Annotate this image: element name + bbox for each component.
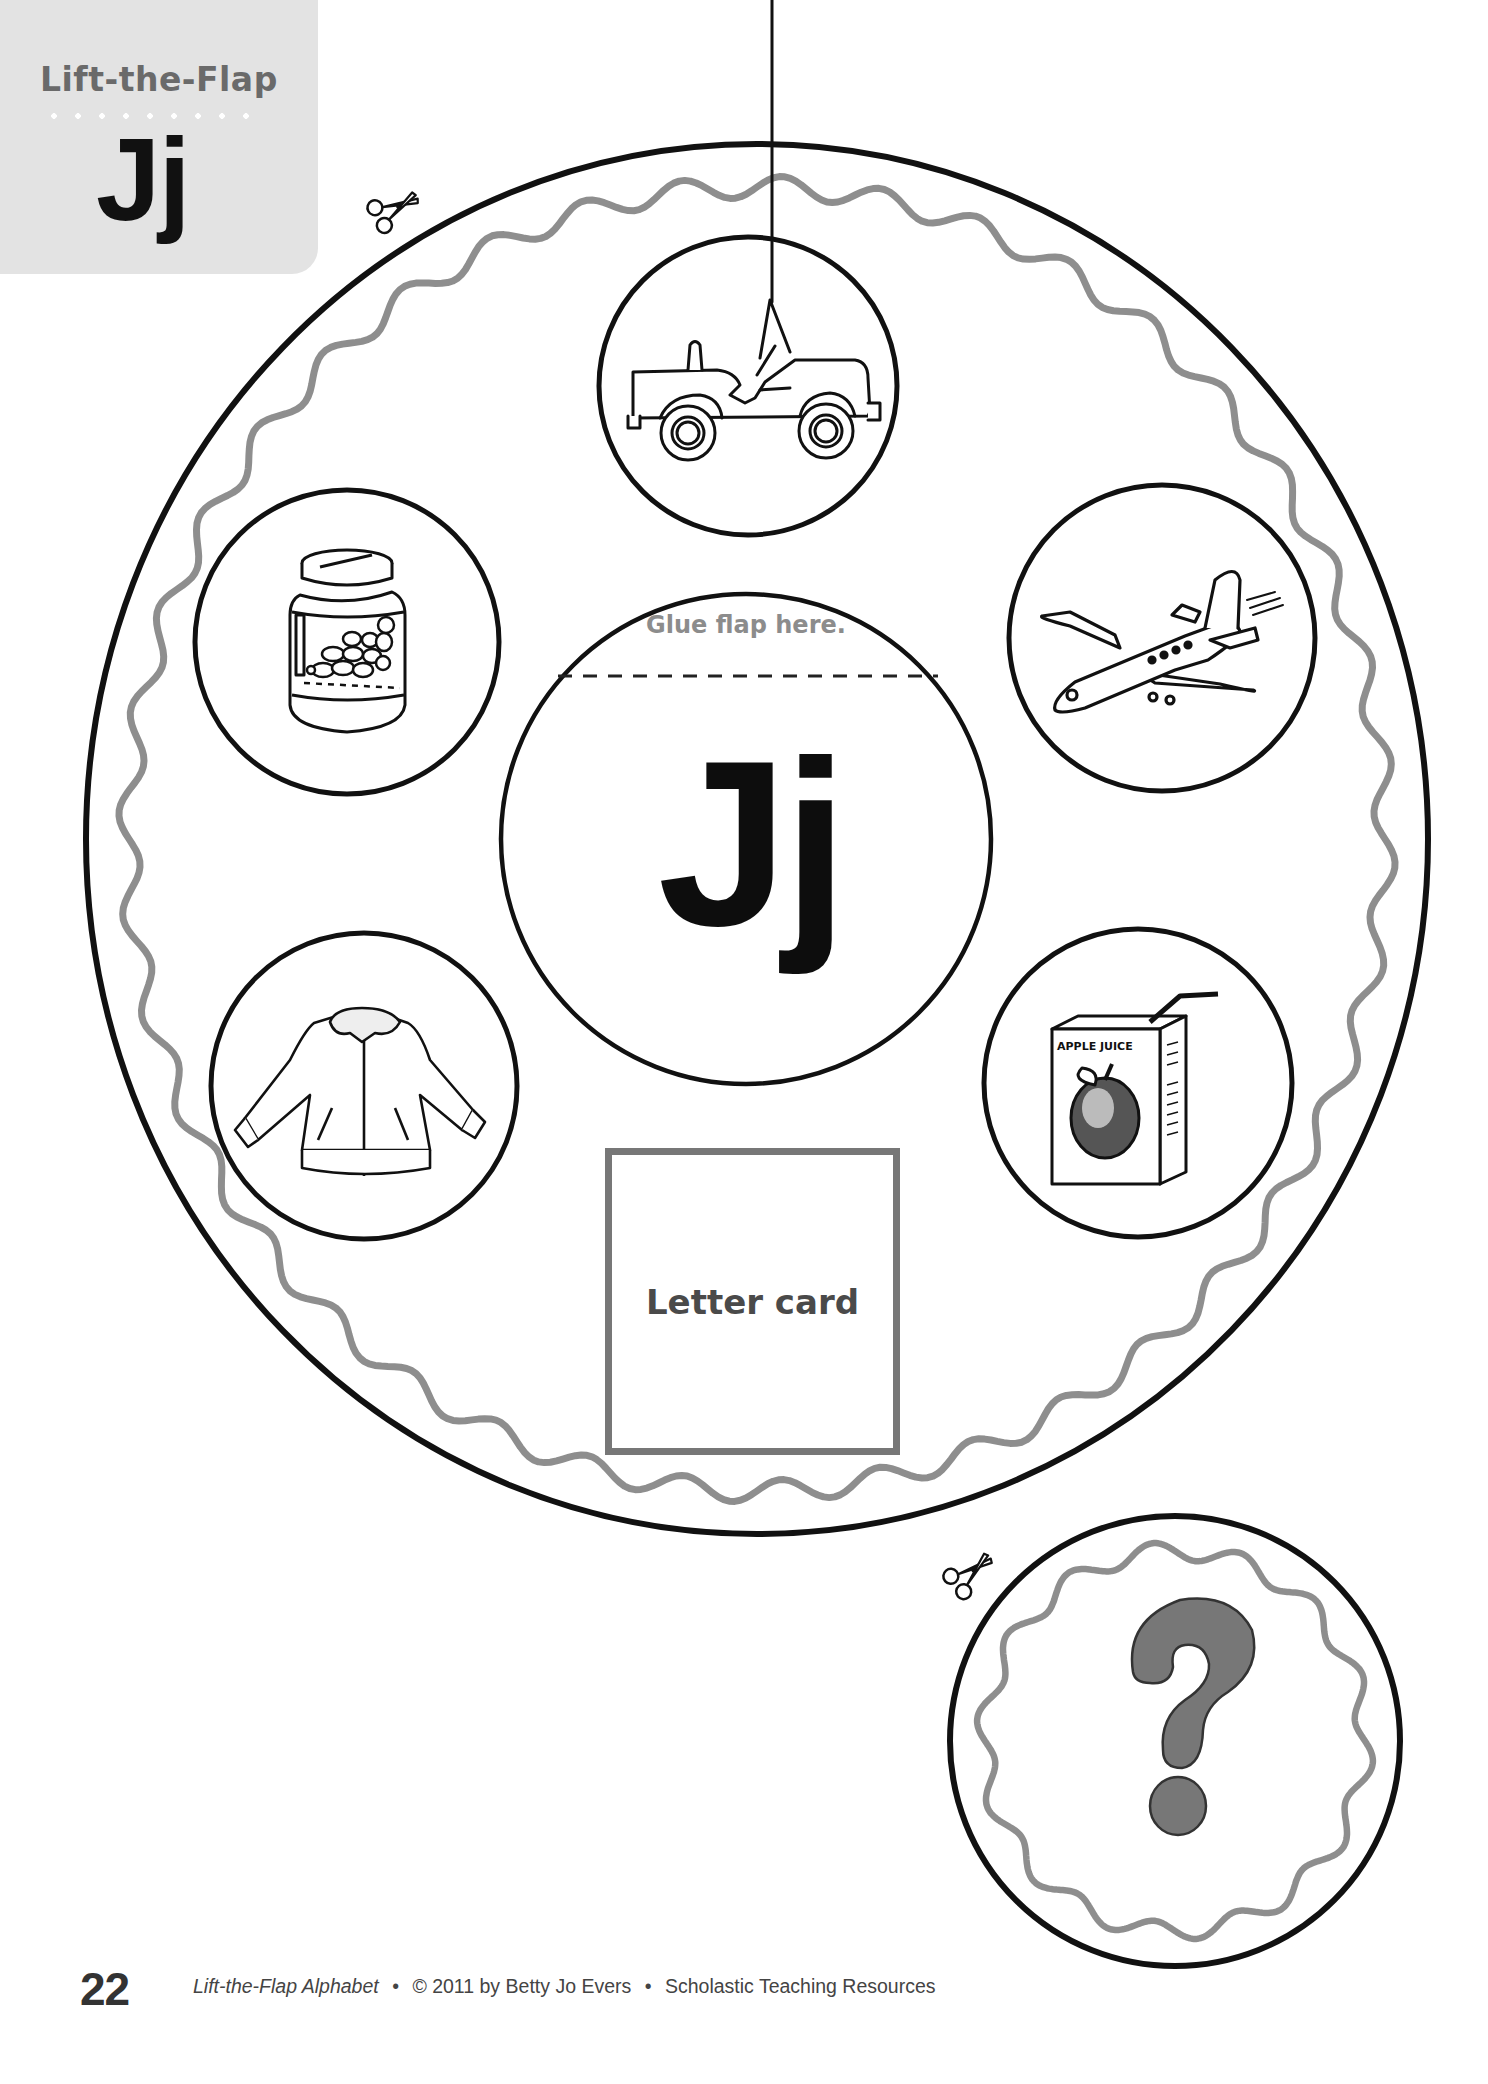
picture-circle-apple-juice[interactable]: APPLE JUICE — [984, 929, 1292, 1237]
footer-book-title: Lift-the-Flap Alphabet — [193, 1975, 379, 1997]
letter-card-label: Letter card — [612, 1282, 893, 1322]
picture-circle-jacket[interactable] — [211, 933, 517, 1239]
jam-jar-icon — [290, 550, 405, 732]
picture-circle-jam-jar[interactable] — [195, 490, 499, 794]
footer-credits: Lift-the-Flap Alphabet • © 2011 by Betty… — [193, 1975, 936, 1998]
glue-flap-instruction: Glue flap here. — [596, 611, 896, 639]
footer-copyright: © 2011 by Betty Jo Evers — [412, 1975, 631, 1997]
picture-circle-airplane[interactable] — [1009, 485, 1315, 791]
footer-publisher: Scholastic Teaching Resources — [665, 1975, 936, 1997]
page-number: 22 — [80, 1962, 129, 2016]
scissors-icon — [940, 1544, 1000, 1603]
scissors-icon — [365, 181, 425, 235]
footer-separator: • — [392, 1975, 399, 1997]
svg-text:APPLE JUICE: APPLE JUICE — [1057, 1040, 1133, 1053]
question-flap-cutout[interactable] — [950, 1516, 1400, 1966]
center-letter: Jj — [560, 725, 940, 961]
footer-separator: • — [645, 1975, 652, 1997]
